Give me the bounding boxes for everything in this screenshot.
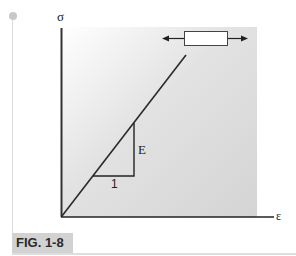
y-axis-label: σ — [57, 9, 64, 25]
slope-label-e: E — [138, 142, 146, 158]
bottom-rule — [12, 253, 296, 255]
shaded-region — [61, 27, 257, 217]
figure-label: FIG. 1-8 — [12, 233, 73, 253]
x-axis-label: ε — [276, 209, 281, 224]
slope-label-one: 1 — [111, 177, 118, 191]
stress-strain-diagram — [0, 0, 296, 256]
